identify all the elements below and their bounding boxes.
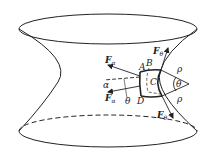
label-point-d: D [136,96,144,106]
label-f-alpha-bottom: Fα [104,93,115,104]
label-f-alpha-top: Fα [104,55,115,66]
label-point-a: A [138,62,146,72]
label-point-c: C [150,77,157,87]
label-f-theta-top: Fθ [152,46,163,57]
bottom-rim-back [19,115,197,131]
label-angle-alpha: α [103,80,109,90]
label-angle-theta-bottom: θ [125,96,131,106]
radius-lines [161,70,189,96]
f-alpha-top-arrow [108,65,140,76]
hyperboloid-shell-diagram: Fα Fα Fθ Fθ A B C D α θ θ ρ ρ [0,0,210,165]
label-radius-bottom: ρ [176,94,183,104]
label-angle-theta-center: θ [176,79,182,89]
label-radius-top: ρ [176,64,183,74]
top-rim [19,14,197,44]
bottom-rim-front [19,131,197,147]
label-point-b: B [145,58,153,68]
left-profile [19,29,61,131]
alpha-ref-dash [104,77,140,80]
f-alpha-bottom-arrow [108,86,140,92]
label-f-theta-bottom: Fθ [156,110,167,121]
radius-top-line [161,70,189,84]
